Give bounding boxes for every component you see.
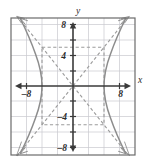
y-tick-label-neg8: –8 — [57, 143, 68, 153]
x-tick-label-8: 8 — [118, 89, 123, 99]
x-tick-label-neg8: –8 — [21, 89, 32, 99]
x-axis-label: x — [137, 75, 143, 85]
y-tick-label-4: 4 — [60, 51, 66, 61]
hyperbola-plot: –8 8 8 4 –4 –8 x y — [0, 0, 151, 165]
y-tick-label-8: 8 — [61, 20, 66, 30]
y-tick-label-neg4: –4 — [57, 112, 68, 122]
hyperbola-figure: –8 8 8 4 –4 –8 x y — [0, 0, 151, 165]
y-axis-label: y — [75, 6, 81, 16]
